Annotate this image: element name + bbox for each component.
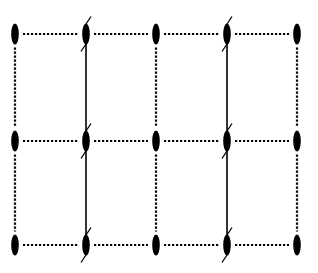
lattice-node-r3-c5 [293,235,301,256]
lattice-node-r2-c3 [152,131,160,152]
lattice-node-r3-c2 [82,235,90,256]
lattice-node-r3-c4 [223,235,231,256]
lattice-node-r1-c4 [223,24,231,45]
lattice-node-r3-c1 [11,235,19,256]
lattice-node-r2-c2 [82,131,90,152]
lattice-node-r2-c1 [11,131,19,152]
lattice-diagram [0,0,318,273]
lattice-node-r1-c2 [82,24,90,45]
lattice-node-r1-c5 [293,24,301,45]
lattice-node-r1-c1 [11,24,19,45]
lattice-node-r2-c5 [293,131,301,152]
lattice-node-r1-c3 [152,24,160,45]
lattice-node-r2-c4 [223,131,231,152]
lattice-node-r3-c3 [152,235,160,256]
